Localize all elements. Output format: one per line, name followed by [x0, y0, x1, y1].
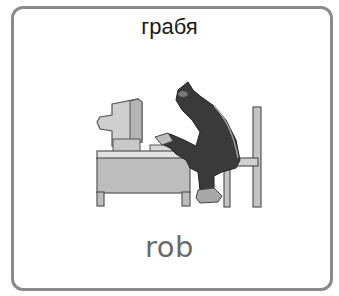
card-caption: rob [0, 230, 339, 264]
monitor-icon [97, 99, 142, 152]
desk-icon [97, 151, 190, 206]
